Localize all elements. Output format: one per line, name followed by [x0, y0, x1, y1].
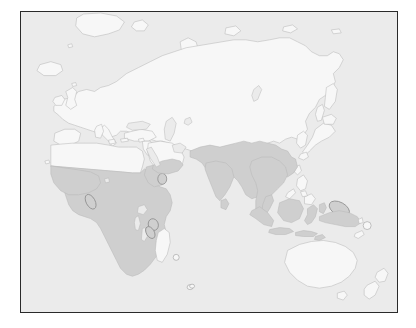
sicily-island [109, 139, 116, 144]
fiji-island-ring [363, 222, 371, 230]
faroe-islands [72, 83, 77, 87]
wrangel-island [331, 29, 341, 34]
antarctic-island-ring [190, 284, 195, 288]
great-britain [66, 87, 77, 109]
world-map-svg [21, 12, 397, 312]
distribution-map-figure [20, 11, 398, 313]
socotra-island-ring [158, 173, 167, 184]
lake-chad [105, 178, 110, 183]
canary-islands [45, 160, 50, 164]
reunion-mauritius-ring [173, 254, 179, 260]
cyprus-island [138, 138, 144, 142]
jan-mayen-island [68, 44, 73, 48]
crete-island [120, 138, 128, 142]
